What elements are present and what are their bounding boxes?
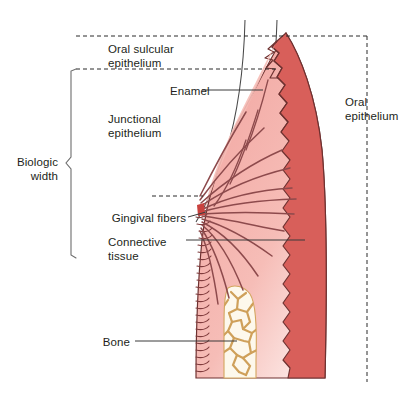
label-enamel: Enamel (170, 84, 210, 98)
label-oral-sulcular-epithelium: Oral sulcular epithelium (108, 42, 174, 70)
alveolar-bone (223, 286, 257, 378)
label-gingival-fibers: Gingival fibers (0, 211, 186, 225)
label-connective-tissue: Connective tissue (108, 235, 167, 263)
biologic-width-bracket (66, 69, 76, 258)
label-bone: Bone (0, 335, 130, 349)
label-biologic-width: Biologic width (0, 155, 58, 183)
label-junctional-epithelium: Junctional epithelium (108, 112, 161, 140)
label-oral-epithelium: Oral epithelium (345, 95, 398, 123)
periodontal-anatomy-diagram: Oral sulcular epithelium Enamel Junction… (0, 0, 414, 400)
